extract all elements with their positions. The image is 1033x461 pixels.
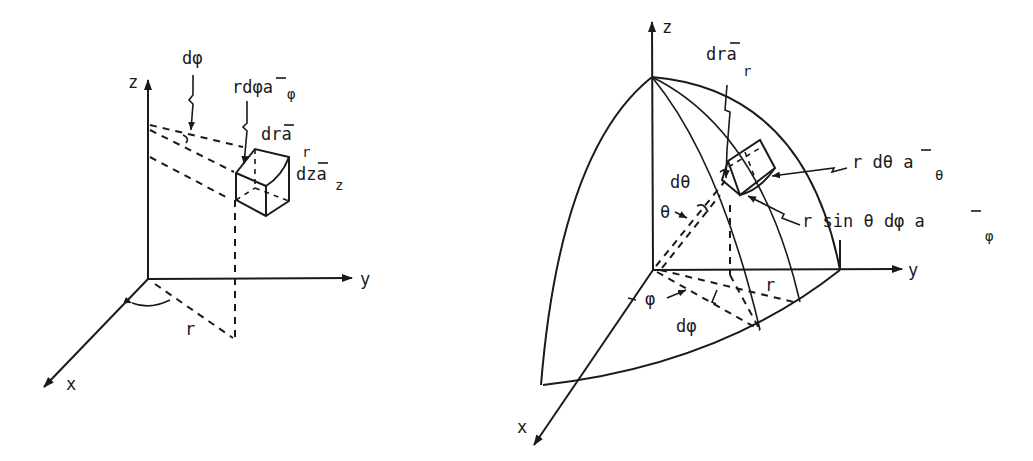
rdphi-subscript: φ [287, 86, 295, 102]
y-axis-label: y [908, 260, 918, 280]
dphi-pointer [189, 75, 193, 130]
phi-pointer [667, 290, 686, 298]
rdtheta-label: r dθ a [852, 152, 913, 172]
y-axis [148, 278, 352, 279]
z-axis-label: z [662, 17, 672, 37]
z-axis [652, 22, 653, 270]
dtheta-label: dθ [670, 172, 690, 192]
x-axis-label: x [66, 374, 76, 394]
y-axis-label: y [360, 269, 370, 289]
dphi-bracket [712, 290, 717, 304]
dr-label: dra [261, 124, 292, 144]
rdtheta-pointer [772, 168, 847, 176]
projection-top-2 [150, 130, 234, 172]
z-axis-label: z [128, 72, 138, 92]
rsin-label: r sin θ dφ a [802, 211, 925, 231]
cylindrical-diagram: z y x r dφ rdφa φ dra r [44, 48, 370, 394]
spherical-diagram: z y x dra r dθ θ [517, 17, 993, 445]
projection-bottom [150, 157, 226, 197]
x-axis-label: x [517, 417, 527, 437]
dphi-label: dφ [182, 48, 202, 68]
rdphi-label: rdφa [232, 77, 273, 97]
radius-label: r [765, 275, 775, 295]
radius-label: r [185, 319, 195, 339]
y-axis [653, 269, 902, 270]
sphere-xz-arc [541, 77, 652, 385]
dphi-label: dφ [676, 316, 696, 336]
dz-subscript: z [335, 177, 343, 193]
dr-label: dra [706, 44, 737, 64]
theta-pointer [675, 212, 687, 218]
dz-label: dza [296, 164, 327, 184]
dtheta-bracket [697, 205, 708, 212]
phi-angle-arc [132, 300, 170, 306]
theta-label: θ [660, 202, 670, 222]
radius-line-2 [662, 195, 720, 268]
dr-subscript: r [302, 144, 310, 160]
coordinate-diagrams: z y x r dφ rdφa φ dra r [0, 0, 1033, 461]
rdphi-pointer [243, 101, 247, 164]
phi-line-3 [730, 275, 760, 330]
rdtheta-subscript: θ [935, 167, 943, 183]
dr-subscript: r [743, 63, 751, 79]
rsin-subscript: φ [985, 228, 993, 244]
x-axis [44, 279, 148, 387]
radius-line-1 [656, 181, 725, 266]
phi-label: φ [645, 289, 655, 309]
dphi-bracket [183, 135, 187, 143]
